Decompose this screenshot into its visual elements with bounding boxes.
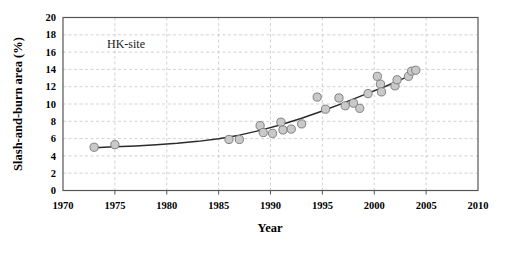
x-tick-label: 1980 (156, 200, 177, 211)
y-tick-label: 10 (46, 99, 57, 110)
data-point-marker (287, 125, 295, 133)
x-tick-labels: 197019751980198519901995200020052010 (53, 200, 489, 211)
y-tick-labels: 02468101214161820 (46, 12, 57, 196)
data-points (90, 66, 420, 151)
y-axis-title: Slash-and-burn area (%) (11, 37, 25, 171)
data-point-marker (277, 118, 285, 126)
x-axis-title: Year (258, 221, 283, 235)
x-tick-label: 1990 (260, 200, 281, 211)
y-tick-label: 0 (51, 185, 56, 196)
data-point-marker (412, 66, 420, 74)
data-point-marker (393, 76, 401, 84)
y-tick-label: 8 (51, 116, 56, 127)
data-point-marker (259, 128, 267, 136)
data-point-marker (225, 135, 233, 143)
data-point-marker (268, 129, 276, 137)
data-point-marker (377, 88, 385, 96)
data-point-marker (313, 93, 321, 101)
data-point-marker (279, 126, 287, 134)
data-point-marker (111, 141, 119, 149)
chart-figure: 02468101214161820 1970197519801985199019… (0, 0, 509, 256)
data-point-marker (373, 72, 381, 80)
x-tick-label: 1970 (53, 200, 74, 211)
site-annotation-label: HK-site (107, 37, 145, 51)
y-tick-label: 14 (46, 64, 57, 75)
y-tick-label: 12 (46, 81, 57, 92)
data-point-marker (90, 143, 98, 151)
x-tick-label: 2005 (416, 200, 437, 211)
x-tick-label: 1985 (208, 200, 229, 211)
data-point-marker (364, 90, 372, 98)
y-tick-label: 6 (51, 133, 56, 144)
y-tick-label: 16 (46, 47, 57, 58)
data-point-marker (376, 80, 384, 88)
x-tick-label: 2010 (468, 200, 489, 211)
data-point-marker (298, 120, 306, 128)
scatter-plot: 02468101214161820 1970197519801985199019… (0, 0, 509, 256)
x-tick-label: 2000 (364, 200, 385, 211)
data-point-marker (356, 104, 364, 112)
data-point-marker (335, 94, 343, 102)
data-point-marker (321, 105, 329, 113)
y-tick-label: 2 (51, 168, 56, 179)
axis-ticks (115, 191, 426, 195)
data-point-marker (235, 135, 243, 143)
data-point-marker (341, 102, 349, 110)
x-tick-label: 1995 (312, 200, 333, 211)
y-tick-label: 20 (46, 12, 57, 23)
trend-line (94, 72, 418, 148)
y-tick-label: 4 (51, 151, 57, 162)
x-tick-label: 1975 (104, 200, 125, 211)
y-tick-label: 18 (46, 29, 57, 40)
